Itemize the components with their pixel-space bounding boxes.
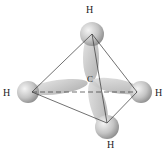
hydrogen-label-top: H bbox=[86, 5, 93, 15]
hydrogen-label-bottom: H bbox=[107, 140, 114, 150]
hydrogen-label-right: H bbox=[155, 88, 162, 98]
carbon-label: C bbox=[87, 75, 93, 84]
methane-diagram: H H H H C bbox=[0, 0, 165, 155]
orbital-lobes bbox=[27, 34, 142, 129]
tetrahedron-figure bbox=[0, 0, 165, 155]
hydrogen-label-left: H bbox=[3, 88, 10, 98]
